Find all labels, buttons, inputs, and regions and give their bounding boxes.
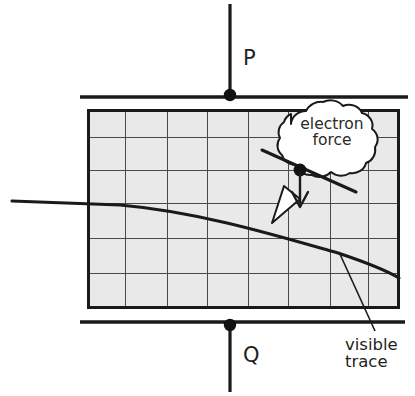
plate-label-q: Q	[243, 345, 260, 367]
electron-force-label: electronforce	[286, 116, 378, 148]
electron-force-label-line2: force	[286, 132, 378, 148]
plate-q-terminal	[224, 319, 236, 331]
visible-trace-label: visibletrace	[345, 336, 415, 370]
diagram-canvas: P Q electronforce visibletrace	[0, 0, 415, 396]
plate-label-p: P	[243, 48, 256, 70]
visible-trace-label-line1: visible	[345, 335, 398, 354]
plate-p-terminal	[224, 89, 236, 101]
visible-trace-label-line2: trace	[345, 353, 415, 370]
